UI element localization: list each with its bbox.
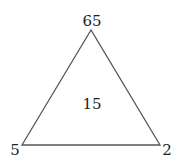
center-label: 15: [82, 95, 101, 113]
vertex-bottom-right-label: 2: [162, 141, 172, 159]
triangle-diagram: 65 5 2 15: [0, 0, 179, 164]
vertex-bottom-left-label: 5: [10, 141, 20, 159]
vertex-top-label: 65: [82, 12, 101, 30]
triangle-shape: [22, 30, 160, 145]
